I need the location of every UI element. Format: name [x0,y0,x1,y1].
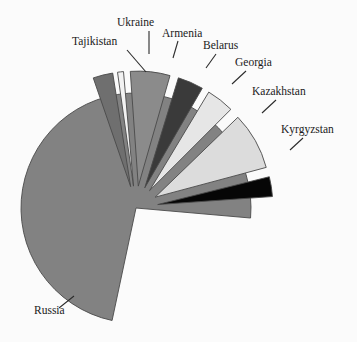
slice-label-georgia: Georgia [235,56,272,69]
pie-chart-canvas: RussiaTajikistanUkraineArmeniaBelarusGeo… [0,0,357,342]
leader-line-tajikistan [127,50,146,72]
slice-label-russia: Russia [34,304,65,316]
slice-label-belarus: Belarus [203,39,239,51]
leader-line-armenia [173,41,178,58]
leader-line-kyrgyzstan [290,138,303,150]
slice-label-armenia: Armenia [162,27,202,39]
pie-chart: RussiaTajikistanUkraineArmeniaBelarusGeo… [0,0,357,342]
slice-label-ukraine: Ukraine [117,16,154,28]
pie-slices-group [21,71,272,320]
slice-label-kyrgyzstan: Kyrgyzstan [281,123,334,136]
slice-label-kazakhstan: Kazakhstan [252,85,306,97]
leader-line-belarus [206,54,216,68]
leader-line-georgia [232,71,246,84]
slice-label-tajikistan: Tajikistan [72,35,117,48]
leader-line-kazakhstan [262,100,276,113]
